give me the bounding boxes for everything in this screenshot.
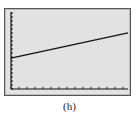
figure-caption: (h)	[0, 100, 139, 112]
line-plot	[5, 9, 130, 95]
data-line	[11, 33, 128, 58]
calculator-graph-screen	[4, 8, 131, 96]
